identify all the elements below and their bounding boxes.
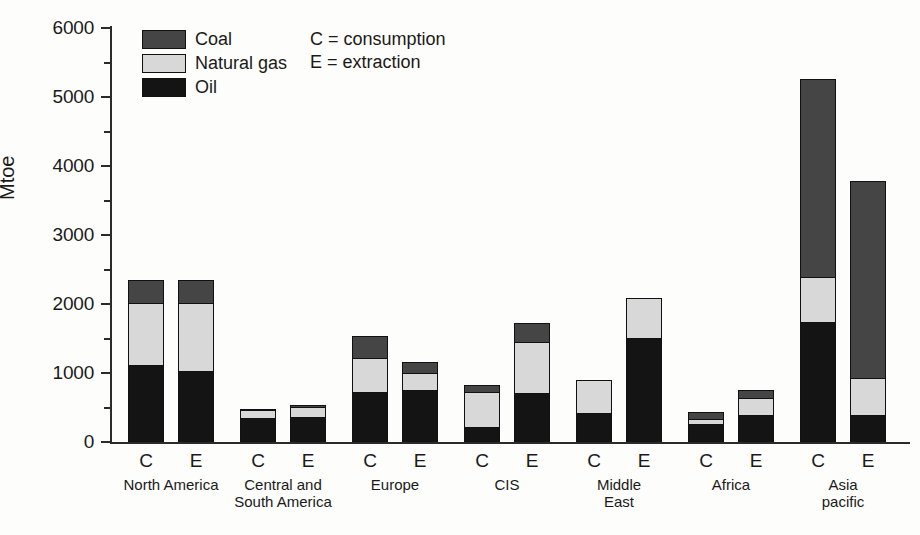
bar-europe-e (402, 362, 438, 442)
bar-middle-east-c (576, 380, 612, 442)
y-tick-label: 1000 (32, 363, 94, 382)
note-consumption: C = consumption (310, 28, 446, 51)
y-axis-title: Mtoe (0, 156, 19, 200)
chart-note: C = consumption E = extraction (310, 28, 446, 74)
bar-segment-oil (800, 322, 836, 442)
bar-cis-c (464, 385, 500, 442)
bar-segment-oil (514, 393, 550, 442)
y-tick-label: 0 (32, 432, 94, 451)
bar-segment-coal (352, 336, 388, 358)
legend-label-natural-gas: Natural gas (195, 53, 287, 74)
bar-central-and-south-america-c (240, 409, 276, 442)
bar-central-and-south-america-e (290, 405, 326, 442)
y-tick-label: 6000 (32, 18, 94, 37)
legend-swatch-natural-gas (142, 54, 186, 73)
energy-chart: Mtoe 0100020003000400050006000 CENorth A… (0, 0, 920, 535)
legend-item: Natural gas (142, 52, 287, 74)
x-tick-label-e: E (402, 450, 438, 472)
x-tick-label-e: E (626, 450, 662, 472)
bar-segment-natural-gas (290, 407, 326, 417)
x-tick-label-c: C (576, 450, 612, 472)
legend-item: Coal (142, 28, 287, 50)
bar-middle-east-e (626, 298, 662, 442)
legend-swatch-coal (142, 30, 186, 49)
bar-north-america-e (178, 280, 214, 442)
bar-segment-oil (402, 390, 438, 442)
group-label-line: South America (208, 493, 358, 510)
x-tick-label-e: E (178, 450, 214, 472)
bar-segment-natural-gas (576, 380, 612, 413)
bar-segment-oil (626, 338, 662, 442)
x-tick-label-c: C (464, 450, 500, 472)
bar-africa-e (738, 390, 774, 442)
x-tick-label-c: C (352, 450, 388, 472)
bar-segment-natural-gas (800, 277, 836, 322)
y-tick-major (101, 96, 110, 98)
legend-label-oil: Oil (195, 77, 217, 98)
x-tick-label-c: C (128, 450, 164, 472)
legend-label-coal: Coal (195, 29, 232, 50)
y-tick-major (101, 372, 110, 374)
y-tick-major (101, 165, 110, 167)
y-tick-major (101, 303, 110, 305)
bar-segment-oil (850, 415, 886, 442)
bar-segment-oil (352, 392, 388, 442)
bar-segment-natural-gas (402, 373, 438, 390)
bar-segment-natural-gas (626, 298, 662, 338)
y-tick-label: 4000 (32, 156, 94, 175)
x-axis-line (110, 442, 910, 444)
y-tick-label: 5000 (32, 87, 94, 106)
x-tick-label-e: E (290, 450, 326, 472)
bar-segment-oil (290, 417, 326, 442)
bar-segment-natural-gas (128, 303, 164, 365)
legend-item: Oil (142, 76, 287, 98)
bar-segment-natural-gas (850, 378, 886, 415)
x-tick-label-c: C (688, 450, 724, 472)
x-tick-label-e: E (514, 450, 550, 472)
bar-segment-oil (464, 427, 500, 442)
x-tick-label-c: C (800, 450, 836, 472)
group-label-line: East (544, 493, 694, 510)
group-label: Asiapacific (768, 476, 918, 510)
legend-swatch-oil (142, 78, 186, 97)
bar-segment-natural-gas (352, 358, 388, 392)
bar-segment-coal (514, 323, 550, 342)
bar-segment-oil (576, 413, 612, 442)
bar-cis-e (514, 323, 550, 442)
bar-segment-coal (738, 390, 774, 398)
y-tick-major (101, 27, 110, 29)
bar-asia-pacific-c (800, 79, 836, 442)
bar-segment-coal (402, 362, 438, 373)
bar-segment-coal (178, 280, 214, 303)
bar-segment-oil (128, 365, 164, 442)
bar-segment-coal (464, 385, 500, 392)
x-tick-label-e: E (850, 450, 886, 472)
group-label-line: pacific (768, 493, 918, 510)
bar-segment-natural-gas (738, 398, 774, 415)
bar-segment-natural-gas (464, 392, 500, 427)
legend: Coal Natural gas Oil (142, 28, 287, 100)
x-tick-label-c: C (240, 450, 276, 472)
bar-segment-oil (738, 415, 774, 442)
bar-north-america-c (128, 280, 164, 442)
y-tick-label: 2000 (32, 294, 94, 313)
bar-segment-oil (240, 418, 276, 442)
y-tick-major (101, 441, 110, 443)
bar-asia-pacific-e (850, 181, 886, 442)
bar-africa-c (688, 412, 724, 442)
group-label-line: Asia (768, 476, 918, 493)
bar-segment-natural-gas (240, 410, 276, 418)
bar-segment-oil (688, 424, 724, 442)
bar-segment-oil (178, 371, 214, 442)
bar-segment-natural-gas (514, 342, 550, 393)
x-tick-label-e: E (738, 450, 774, 472)
bar-segment-coal (128, 280, 164, 303)
y-tick-major (101, 234, 110, 236)
bar-europe-c (352, 336, 388, 442)
bar-segment-natural-gas (178, 303, 214, 371)
bar-segment-coal (850, 181, 886, 378)
y-tick-label: 3000 (32, 225, 94, 244)
note-extraction: E = extraction (310, 51, 446, 74)
bar-segment-coal (800, 79, 836, 277)
